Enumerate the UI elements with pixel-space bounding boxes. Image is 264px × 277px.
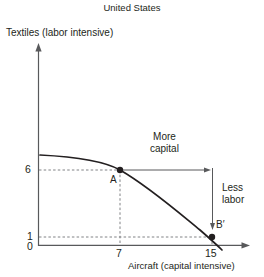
more-capital-arrow	[122, 168, 211, 173]
ppf-curve	[40, 155, 222, 250]
guide-lines	[39, 170, 212, 245]
less-labor-arrow	[210, 168, 215, 230]
data-point-b-prime	[209, 234, 215, 240]
data-point-a	[117, 167, 123, 173]
ppf-chart-figure: United States Textiles (labor intensive)…	[0, 0, 264, 277]
y-axis	[35, 43, 41, 246]
plot-area	[0, 0, 264, 277]
